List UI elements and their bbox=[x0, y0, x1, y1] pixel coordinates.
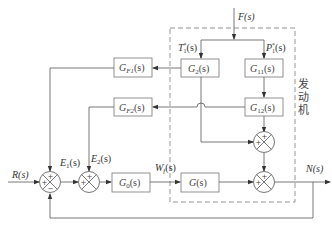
signal-f: F(s) bbox=[237, 11, 255, 23]
label-g: G(s) bbox=[189, 177, 207, 189]
svg-text:+: + bbox=[262, 133, 268, 141]
signal-e2: E2(s) bbox=[90, 153, 111, 166]
svg-text:+: + bbox=[262, 173, 268, 181]
svg-text:+: + bbox=[81, 179, 87, 187]
engine-label-1: 发 bbox=[298, 77, 309, 91]
svg-text:+: + bbox=[48, 173, 54, 181]
signal-e1: E1(s) bbox=[59, 157, 80, 170]
engine-label-3: 机 bbox=[298, 103, 309, 117]
engine-label-2: 动 bbox=[298, 91, 309, 104]
signal-p1: P*1(s) bbox=[265, 42, 286, 54]
signal-n: N(s) bbox=[305, 163, 324, 175]
block-diagram: + + − + + + + + + G2(s) G11(s) G12(s) GF… bbox=[0, 0, 332, 227]
signal-wf: Wf(s) bbox=[155, 162, 176, 175]
signal-r: R(s) bbox=[11, 169, 29, 181]
svg-text:+: + bbox=[87, 173, 93, 181]
svg-text:+: + bbox=[256, 179, 262, 187]
signal-lines bbox=[8, 68, 330, 218]
svg-text:+: + bbox=[256, 139, 262, 147]
signal-t1: T*1(s) bbox=[178, 42, 197, 54]
svg-text:−: − bbox=[48, 185, 54, 193]
